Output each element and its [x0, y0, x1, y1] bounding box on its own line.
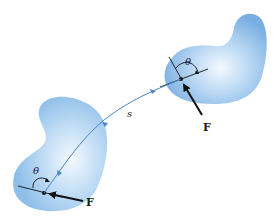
- upper-body: θ F: [160, 14, 267, 134]
- upper-body-shape: [165, 14, 267, 104]
- path-s-label: s: [127, 108, 132, 119]
- lower-body-shape: [13, 97, 107, 211]
- upper-force-label: F: [203, 121, 211, 134]
- lower-body: θ F: [13, 97, 107, 211]
- lower-theta-label: θ: [33, 165, 39, 176]
- upper-theta-label: θ: [185, 56, 191, 67]
- work-of-force-diagram: θ F θ F s: [0, 0, 278, 219]
- lower-force-label: F: [86, 196, 94, 209]
